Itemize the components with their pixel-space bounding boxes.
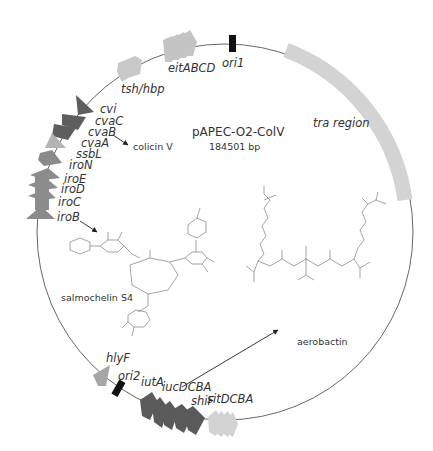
plasmid-map: ori1 tra region eitABCD tsh/hbp cvi cvaC… bbox=[0, 0, 433, 451]
label-ori2: ori2 bbox=[118, 369, 140, 383]
aerobactin-arrow bbox=[182, 330, 278, 387]
label-tsh-hbp: tsh/hbp bbox=[121, 82, 165, 96]
aerobactin-structure bbox=[246, 186, 386, 282]
label-iroC: iroC bbox=[58, 195, 81, 209]
salmochelin-structure bbox=[70, 208, 214, 336]
label-iutA: iutA bbox=[141, 375, 164, 389]
eitABCD-gene-cluster bbox=[163, 30, 197, 62]
label-iroN: iroN bbox=[69, 158, 93, 172]
iroB-gene bbox=[26, 206, 55, 219]
colicin-v-label: colicin V bbox=[133, 141, 173, 152]
label-sitDCBA: sitDCBA bbox=[207, 392, 253, 406]
label-iucDCBA: iucDCBA bbox=[162, 380, 212, 394]
label-eitABCD: eitABCD bbox=[168, 61, 216, 75]
plasmid-size: 184501 bp bbox=[209, 141, 260, 152]
salmochelin-arrow bbox=[80, 221, 97, 232]
label-tra-region: tra region bbox=[313, 116, 370, 130]
label-ori1: ori1 bbox=[222, 56, 244, 70]
salmochelin-label: salmochelin S4 bbox=[61, 292, 133, 303]
tsh-hbp-gene bbox=[117, 56, 142, 82]
iro-gene-cluster bbox=[28, 168, 60, 210]
ori1-marker bbox=[229, 35, 236, 52]
plasmid-name: pAPEC-O2-ColV bbox=[192, 125, 285, 139]
iroN-gene bbox=[38, 150, 62, 166]
label-iroB: iroB bbox=[57, 210, 80, 224]
label-hlyF: hlyF bbox=[106, 351, 130, 365]
sitDCBA-gene-cluster bbox=[208, 410, 238, 437]
aerobactin-label: aerobactin bbox=[297, 336, 348, 347]
label-iroD: iroD bbox=[61, 182, 85, 196]
